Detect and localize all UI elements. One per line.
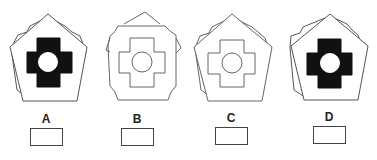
option-a-label: A xyxy=(16,112,76,126)
side-flap-right xyxy=(176,38,181,53)
cross-center-circle xyxy=(321,54,340,73)
option-a-answer-box[interactable] xyxy=(30,128,63,146)
top-triangle xyxy=(124,12,160,24)
option-c-label: C xyxy=(201,111,261,125)
option-c: C xyxy=(201,111,261,145)
option-d: D xyxy=(299,110,359,144)
figures-canvas xyxy=(0,0,377,110)
figure-b xyxy=(106,12,181,100)
option-b-label: B xyxy=(107,112,167,126)
option-c-answer-box[interactable] xyxy=(215,127,248,145)
cross-center-circle xyxy=(132,52,152,72)
option-b: B xyxy=(107,112,167,146)
option-d-label: D xyxy=(299,110,359,124)
figure-d xyxy=(290,14,368,100)
cross-center-circle xyxy=(222,53,242,73)
option-a: A xyxy=(16,112,76,146)
figure-a xyxy=(10,14,87,101)
figure-c xyxy=(194,14,272,101)
option-b-answer-box[interactable] xyxy=(121,128,154,146)
option-d-answer-box[interactable] xyxy=(313,126,346,144)
cross-center-circle xyxy=(39,53,58,72)
